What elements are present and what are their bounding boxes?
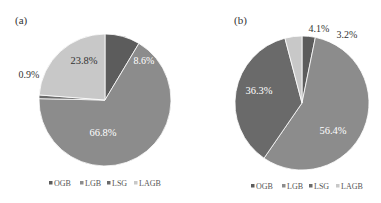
slice-label-lagb-b: 4.1% [309, 23, 330, 34]
pie-chart-a [39, 34, 171, 166]
slice-label-lagb-a: 23.8% [70, 55, 97, 66]
legend-swatch-lgb [80, 181, 84, 185]
legend-label-lagb: LAGB [341, 182, 363, 191]
legend-label-lsg: LSG [314, 182, 329, 191]
legend-swatch-lagb [134, 181, 138, 185]
legend-label-lgb: LGB [287, 182, 303, 191]
legend-label-ogb: OGB [54, 179, 71, 188]
panel-a: (a) 8.6% 66.8% 0.9% 23.8% OGB LGB LSG LA… [15, 14, 171, 188]
legend-b: OGB LGB LSG LAGB [251, 182, 363, 191]
pie-chart-b [235, 36, 369, 170]
slice-label-lgb-b: 56.4% [319, 125, 346, 136]
legend-swatch-ogb [49, 181, 53, 185]
slice-label-lgb-a: 66.8% [89, 127, 116, 138]
legend-label-ogb: OGB [256, 182, 273, 191]
legend-label-lgb: LGB [85, 179, 101, 188]
legend-label-lsg: LSG [112, 179, 127, 188]
legend-swatch-ogb [251, 184, 255, 188]
figure: (a) 8.6% 66.8% 0.9% 23.8% OGB LGB LSG LA… [0, 0, 381, 203]
legend-swatch-lsg [309, 184, 313, 188]
panel-b-tag: (b) [234, 14, 247, 27]
slice-label-lsg-a: 0.9% [19, 69, 40, 80]
panel-b: (b) 3.2% 56.4% 36.3% 4.1% OGB LGB LSG LA… [234, 14, 369, 191]
legend-label-lagb: LAGB [139, 179, 161, 188]
panel-a-tag: (a) [15, 14, 28, 27]
legend-swatch-lsg [107, 181, 111, 185]
pie-slice-lagb [39, 34, 105, 100]
slice-label-ogb-b: 3.2% [337, 29, 358, 40]
slice-label-lsg-b: 36.3% [245, 85, 272, 96]
legend-a: OGB LGB LSG LAGB [49, 179, 161, 188]
legend-swatch-lagb [336, 184, 340, 188]
legend-swatch-lgb [282, 184, 286, 188]
slice-label-ogb-a: 8.6% [134, 55, 155, 66]
